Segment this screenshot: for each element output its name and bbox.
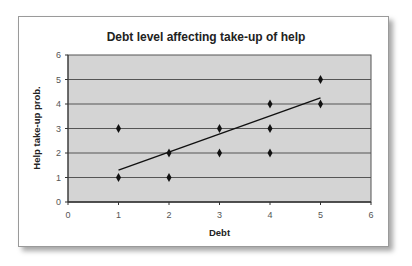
y-tick-label: 3	[56, 124, 61, 134]
y-tick-label: 4	[56, 99, 61, 109]
x-tick-label: 1	[116, 210, 121, 220]
x-tick-label: 3	[217, 210, 222, 220]
y-tick-label: 0	[56, 197, 61, 207]
y-tick-label: 1	[56, 173, 61, 183]
y-axis-label: Help take-up prob.	[31, 86, 42, 169]
x-axis-label: Debt	[209, 227, 231, 238]
x-tick-label: 5	[318, 210, 323, 220]
x-tick-label: 0	[65, 210, 70, 220]
x-tick-label: 6	[368, 210, 373, 220]
x-tick-label: 2	[166, 210, 171, 220]
scatter-plot: 01234560123456DebtHelp take-up prob.	[0, 0, 412, 266]
x-tick-label: 4	[267, 210, 272, 220]
y-tick-label: 5	[56, 75, 61, 85]
y-tick-label: 2	[56, 148, 61, 158]
y-tick-label: 6	[56, 50, 61, 60]
